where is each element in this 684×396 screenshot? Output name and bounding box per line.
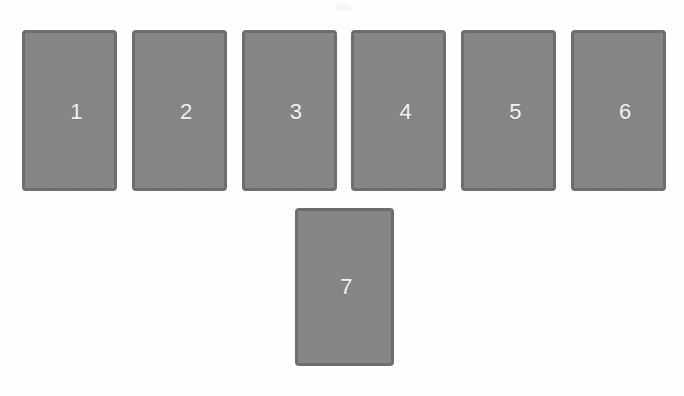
card-3[interactable]: 3 (242, 30, 337, 191)
card-label: 7 (340, 276, 353, 298)
card-2[interactable]: 2 (132, 30, 227, 191)
card-6[interactable]: 6 (571, 30, 666, 191)
card-label: 4 (400, 101, 413, 123)
card-layout-canvas: 1 2 3 4 5 6 7 (0, 0, 684, 396)
card-4[interactable]: 4 (351, 30, 446, 191)
card-label: 5 (509, 101, 522, 123)
card-1[interactable]: 1 (22, 30, 117, 191)
image-artifact (330, 2, 356, 12)
card-label: 3 (290, 101, 303, 123)
card-label: 2 (180, 101, 193, 123)
card-label: 1 (70, 101, 83, 123)
card-label: 6 (619, 101, 632, 123)
card-7[interactable]: 7 (295, 208, 394, 366)
bottom-card-row: 7 (0, 208, 684, 366)
card-5[interactable]: 5 (461, 30, 556, 191)
top-card-row: 1 2 3 4 5 6 (22, 30, 666, 191)
